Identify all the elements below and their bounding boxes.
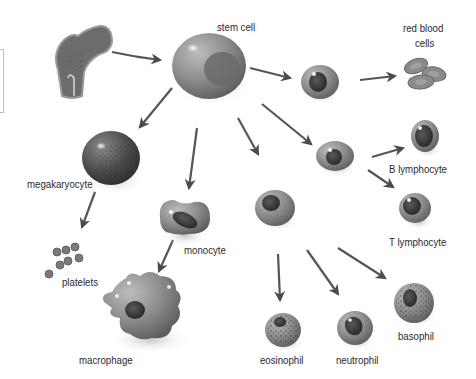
label-eosinophil: eosinophil [260,354,304,366]
bone-illustration [56,26,112,98]
arrow-stem-to-monocyte [189,128,197,188]
arrow-lymphoid-to-b [372,148,403,157]
label-stem-cell: stem cell [217,21,255,33]
label-macrophage: macrophage [79,354,133,366]
arrow-bone-to-stem [112,52,160,60]
label-t-lymphocyte: T lymphocyte [389,236,446,248]
erythroid-progenitor-graphic [301,65,342,105]
label-platelets: platelets [62,276,98,288]
basophil-graphic [394,283,438,327]
label-b-lymphocyte: B lymphocyte [389,163,447,175]
eosinophil-graphic [265,313,304,352]
arrow-stem-to-myeloid [238,118,258,154]
label-monocyte: monocyte [184,244,226,256]
arrow-stem-to-megakaryocyte [140,88,172,127]
label-basophil: basophil [398,330,434,342]
t-lymphocyte-graphic [399,193,435,230]
arrow-monocyte-to-macrophage [159,240,173,271]
b-lymphocyte-graphic [411,120,442,158]
arrow-stem-to-erythroid [250,68,290,78]
myeloid-progenitor-graphic [255,190,298,231]
label-neutrophil: neutrophil [336,354,378,366]
hematopoiesis-diagram: stem cell red blood cells B lymphocyte T… [0,0,476,379]
red-blood-cells-graphic [402,55,447,90]
macrophage-graphic [103,272,192,354]
arrow-myeloid-to-neutrophil [307,250,338,294]
label-red-blood-cells-line1: red blood [403,22,443,34]
label-megakaryocyte: megakaryocyte [27,178,93,190]
arrow-myeloid-to-eosinophil [278,254,280,300]
neutrophil-graphic [337,311,376,350]
stem-cell-graphic [172,33,252,106]
arrow-megakaryocyte-to-platelets [82,192,95,227]
arrow-stem-to-lymphoid [262,104,311,144]
arrow-myeloid-to-basophil [338,248,385,278]
arrow-erythroid-to-rbc [360,76,395,80]
label-red-blood-cells-line2: cells [415,37,434,49]
platelets-graphic [45,243,83,278]
lymphoid-progenitor-graphic [316,141,358,177]
monocyte-graphic [160,200,210,246]
